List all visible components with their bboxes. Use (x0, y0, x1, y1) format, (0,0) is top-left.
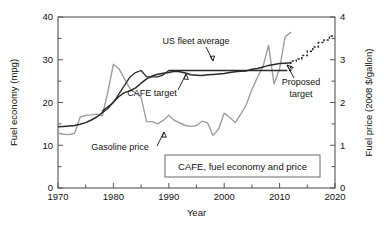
series-proposed-target (285, 36, 335, 70)
annotation-us-fleet-average: US fleet average (162, 36, 229, 61)
left-tick-label-10: 10 (42, 140, 53, 151)
x-tick-label-1970: 1970 (47, 191, 68, 202)
x-tick-label-2010: 2010 (269, 191, 290, 202)
annotation-proposed-target-line2: target (289, 89, 313, 99)
bottom-axis-ticks (58, 183, 335, 188)
x-tick-label-2000: 2000 (214, 191, 235, 202)
left-axis-ticks (58, 17, 63, 188)
title-legend-box: CAFE, fuel economy and price (165, 155, 320, 177)
right-tick-label-4: 4 (340, 11, 345, 22)
bottom-axis-tick-labels: 1970 1980 1990 2000 2010 2020 (47, 191, 345, 202)
figure-container: 0 10 20 30 40 Fuel economy (mpg) 0 1 2 3… (0, 0, 385, 233)
annotation-proposed-target-line1: Proposed (282, 77, 321, 87)
left-axis-tick-labels: 0 10 20 30 40 (42, 11, 53, 193)
annotation-proposed-target: Proposed target (282, 65, 321, 99)
right-tick-label-2: 2 (340, 97, 345, 108)
x-tick-label-2020: 2020 (324, 191, 345, 202)
title-legend-label: CAFE, fuel economy and price (178, 161, 307, 172)
annotation-cafe-target: CAFE target (127, 74, 188, 98)
left-tick-label-40: 40 (42, 11, 53, 22)
x-axis-title: Year (187, 207, 206, 218)
right-axis-title: Fuel price (2008 $/gallon) (363, 49, 374, 157)
right-axis-tick-labels: 0 1 2 3 4 (340, 11, 345, 193)
right-tick-label-1: 1 (340, 140, 345, 151)
right-axis-ticks (330, 17, 335, 188)
x-tick-label-1990: 1990 (158, 191, 179, 202)
left-tick-label-20: 20 (42, 97, 53, 108)
chart-svg: 0 10 20 30 40 Fuel economy (mpg) 0 1 2 3… (0, 0, 385, 233)
annotation-gasoline-price: Gasoline price (91, 132, 166, 152)
left-tick-label-30: 30 (42, 54, 53, 65)
left-axis-title: Fuel economy (mpg) (8, 59, 19, 146)
annotation-gasoline-price-text: Gasoline price (91, 142, 149, 152)
right-tick-label-3: 3 (340, 54, 345, 65)
annotation-us-fleet-average-text: US fleet average (162, 36, 229, 46)
x-tick-label-1980: 1980 (103, 191, 124, 202)
annotation-cafe-target-text: CAFE target (127, 88, 177, 98)
